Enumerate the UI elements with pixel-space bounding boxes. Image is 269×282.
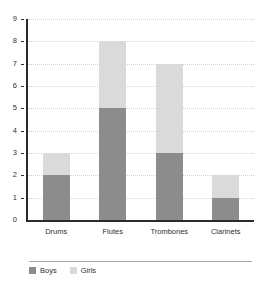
y-axis-tick-label: 5 [13,105,17,113]
bar-segment-girls[interactable] [43,153,70,175]
legend-label: Girls [81,267,96,275]
y-axis-tick-label: 7 [13,60,17,68]
legend-item-boys[interactable]: Boys [29,267,57,275]
y-axis-tick-mark [21,175,24,176]
y-axis-tick-label: 0 [13,216,17,224]
legend-swatch-icon [70,267,77,274]
y-axis-tick-mark [21,86,24,87]
y-axis-tick-mark [21,108,24,109]
bar-segment-boys[interactable] [99,108,126,220]
bar-segment-girls[interactable] [99,41,126,108]
y-axis-tick-mark [21,131,24,132]
y-axis-tick-mark [21,19,24,20]
y-axis-tick-label: 4 [13,127,17,135]
bar-segment-boys[interactable] [156,153,183,220]
bar-segment-boys[interactable] [43,175,70,220]
y-axis-tick-label: 6 [13,82,17,90]
x-axis-tick-label: Trombones [150,226,188,237]
y-axis-tick-label: 9 [13,15,17,23]
x-axis-tick-label: Flutes [103,226,123,237]
plot-area: 0123456789 DrumsFlutesTrombonesClarinets [0,0,269,232]
y-axis-tick-mark [21,153,24,154]
x-axis-tick-labels: DrumsFlutesTrombonesClarinets [28,226,254,242]
chart-legend: BoysGirls [29,267,96,275]
legend-label: Boys [40,267,57,275]
bar-group[interactable] [212,175,239,220]
x-axis-tick-label: Clarinets [211,226,241,237]
legend-separator [29,261,252,262]
bar-group[interactable] [43,153,70,220]
x-axis-tick-label: Drums [45,226,67,237]
stacked-bar-chart: 0123456789 DrumsFlutesTrombonesClarinets… [0,0,269,282]
y-axis-tick-label: 8 [13,38,17,46]
bar-segment-girls[interactable] [156,64,183,153]
bar-segment-boys[interactable] [212,198,239,220]
x-axis-line [26,220,254,222]
y-axis-tick-labels: 0123456789 [0,19,24,220]
bar-segment-girls[interactable] [212,175,239,197]
bar-group[interactable] [156,64,183,220]
legend-swatch-icon [29,267,36,274]
y-axis-tick-label: 1 [13,194,17,202]
y-axis-tick-label: 3 [13,149,17,157]
y-axis-tick-label: 2 [13,172,17,180]
y-axis-tick-mark [21,64,24,65]
y-axis-tick-mark [21,198,24,199]
bar-group[interactable] [99,41,126,220]
y-axis-tick-mark [21,41,24,42]
legend-item-girls[interactable]: Girls [70,267,96,275]
bar-series-container [28,19,254,220]
